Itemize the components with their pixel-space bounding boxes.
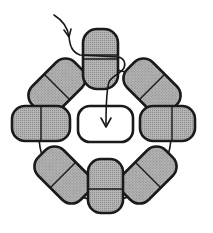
element-bottom <box>88 159 123 213</box>
element-left <box>12 106 70 141</box>
diagram <box>0 0 213 233</box>
element-right <box>140 106 195 141</box>
element-top <box>83 29 118 89</box>
